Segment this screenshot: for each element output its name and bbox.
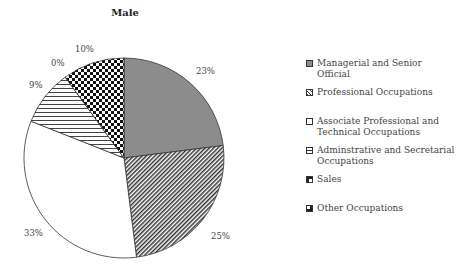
solid-gray-swatch-icon — [306, 60, 313, 67]
horizontal-lines-swatch-icon — [306, 147, 313, 154]
legend-item-other: Other Occupations — [306, 203, 457, 214]
label-professional: 25% — [211, 231, 230, 241]
legend-item-associate: Associate Professional and Technical Occ… — [306, 116, 457, 138]
legend-item-managerial: Managerial and Senior Official — [306, 58, 457, 80]
diagonal-hatch-swatch-icon — [306, 89, 313, 96]
legend-item-administrative: Adminstrative and Secretarial Occupation… — [306, 145, 457, 167]
white-swatch-icon — [306, 118, 313, 125]
legend-item-sales: Sales — [306, 174, 457, 185]
sales-swatch-icon — [306, 176, 313, 183]
slice-professional — [124, 146, 224, 258]
label-administrative: 9% — [29, 80, 43, 90]
label-managerial: 23% — [196, 66, 215, 76]
label-other: 10% — [75, 44, 94, 54]
label-sales: 0% — [51, 58, 65, 68]
label-associate: 33% — [24, 228, 43, 238]
checkerboard-swatch-icon — [306, 205, 313, 212]
legend-item-professional: Professional Occupations — [306, 87, 457, 98]
